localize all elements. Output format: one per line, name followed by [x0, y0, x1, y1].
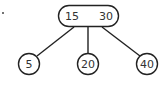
child-node-5: 5 [19, 54, 40, 75]
edge-root-to-5 [37, 27, 74, 56]
root-key-1: 15 [65, 10, 79, 23]
child-key: 20 [81, 58, 95, 71]
child-key: 40 [140, 58, 154, 71]
child-key: 5 [26, 58, 33, 71]
child-node-40: 40 [137, 54, 158, 75]
root-key-2: 30 [99, 10, 113, 23]
tree-edges [37, 26, 140, 56]
bullet-dot [2, 12, 4, 14]
b-tree-diagram: 15 30 5 20 40 [0, 0, 164, 105]
child-node-20: 20 [78, 54, 99, 75]
root-node: 15 30 [59, 6, 119, 27]
edge-root-to-40 [102, 27, 140, 56]
